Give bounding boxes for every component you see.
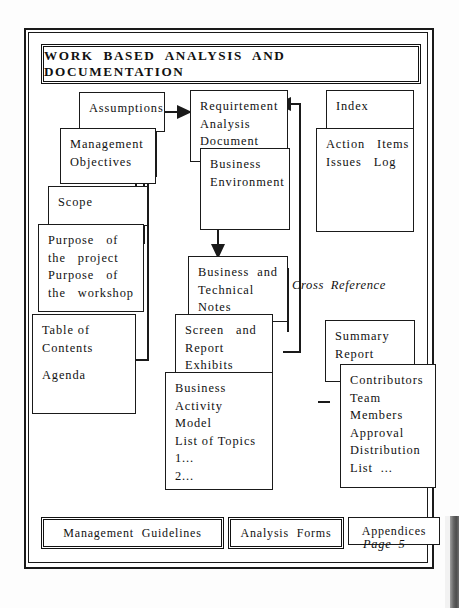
- box-contributors-line-2: Members: [350, 407, 435, 425]
- box-bam-line-4: 1...: [175, 450, 272, 468]
- strip-analysis-forms-label: Analysis Forms: [241, 526, 332, 541]
- box-business-environment-line-1: Environment: [210, 174, 289, 192]
- diagram-title-bar: WORK BASED ANALYSIS AND DOCUMENTATION: [41, 44, 421, 84]
- strip-management-guidelines-label: Management Guidelines: [63, 526, 201, 541]
- scan-edge-artifact: [450, 516, 459, 608]
- box-sre-line-1: Report: [185, 340, 272, 358]
- box-purpose-line-2: Purpose of: [48, 267, 143, 285]
- box-scope-line-0: Scope: [58, 194, 147, 212]
- scan-edge-gap: [445, 516, 450, 608]
- cross-reference-label: Cross Reference: [292, 278, 386, 293]
- box-bam-line-2: Model: [175, 415, 272, 433]
- box-management-objectives-line-1: Objectives: [70, 154, 155, 172]
- box-management-objectives-line-0: Management: [70, 136, 155, 154]
- box-management-objectives: Management Objectives: [60, 128, 156, 184]
- box-business-environment-line-0: Business: [210, 156, 289, 174]
- box-purpose-line-3: the workshop: [48, 285, 143, 303]
- box-action-items-line-0: Action Items: [326, 136, 413, 154]
- box-assumptions: Assumptions: [79, 92, 165, 132]
- box-bam-line-3: List of Topics: [175, 433, 272, 451]
- box-bam-line-0: Business: [175, 380, 272, 398]
- box-contributors-line-1: Team: [350, 390, 435, 408]
- box-requirement-line-1: Analysis: [200, 116, 287, 134]
- box-assumptions-line-0: Assumptions: [89, 100, 164, 118]
- box-bam-line-5: 2...: [175, 468, 272, 486]
- box-screen-report-exhibits: Screen and Report Exhibits: [175, 314, 273, 376]
- box-summary-report-line-0: Summary: [335, 328, 414, 346]
- box-purpose-line-0: Purpose of: [48, 232, 143, 250]
- strip-management-guidelines: Management Guidelines: [41, 517, 224, 549]
- box-sre-line-0: Screen and: [185, 322, 272, 340]
- page-number: Page 5: [363, 537, 406, 552]
- box-bam-line-1: Activity: [175, 398, 272, 416]
- box-table-of-contents: Table of Contents Agenda: [32, 314, 136, 414]
- box-contributors-line-0: Contributors: [350, 372, 435, 390]
- box-toc-line-0: Table of: [42, 322, 135, 340]
- box-business-environment: Business Environment: [200, 148, 290, 230]
- strip-analysis-forms: Analysis Forms: [228, 517, 344, 549]
- box-toc-line-1: Contents: [42, 340, 135, 358]
- box-contributors: Contributors Team Members Approval Distr…: [340, 364, 436, 488]
- box-btn-line-1: Technical: [198, 282, 287, 300]
- diagram-title: WORK BASED ANALYSIS AND DOCUMENTATION: [44, 48, 418, 80]
- box-summary-report-line-1: Report: [335, 346, 414, 364]
- box-purpose: Purpose of the project Purpose of the wo…: [38, 224, 144, 312]
- box-action-items: Action Items Issues Log: [316, 128, 414, 232]
- box-toc-line-3: Agenda: [42, 367, 135, 385]
- box-contributors-line-4: Distribution: [350, 442, 435, 460]
- box-scope: Scope: [48, 186, 148, 226]
- box-btn-line-0: Business and: [198, 264, 287, 282]
- box-index-line-0: Index: [336, 98, 413, 116]
- box-contributors-line-3: Approval: [350, 425, 435, 443]
- box-business-activity-model: Business Activity Model List of Topics 1…: [165, 372, 273, 490]
- box-contributors-line-5: List ...: [350, 460, 435, 478]
- box-business-technical-notes: Business and Technical Notes: [188, 256, 288, 322]
- box-requirement-line-0: Requirtement: [200, 98, 287, 116]
- diagram-page: WORK BASED ANALYSIS AND DOCUMENTATION As…: [0, 0, 459, 608]
- box-action-items-line-1: Issues Log: [326, 154, 413, 172]
- box-toc-line-2: [42, 357, 135, 367]
- box-purpose-line-1: the project: [48, 250, 143, 268]
